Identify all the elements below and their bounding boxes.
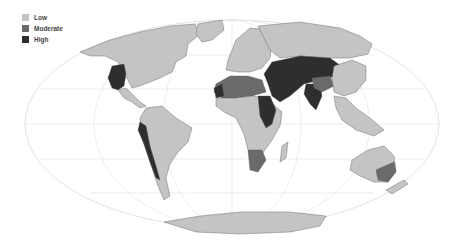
- world-map: [0, 0, 458, 243]
- region-russia: [258, 22, 372, 58]
